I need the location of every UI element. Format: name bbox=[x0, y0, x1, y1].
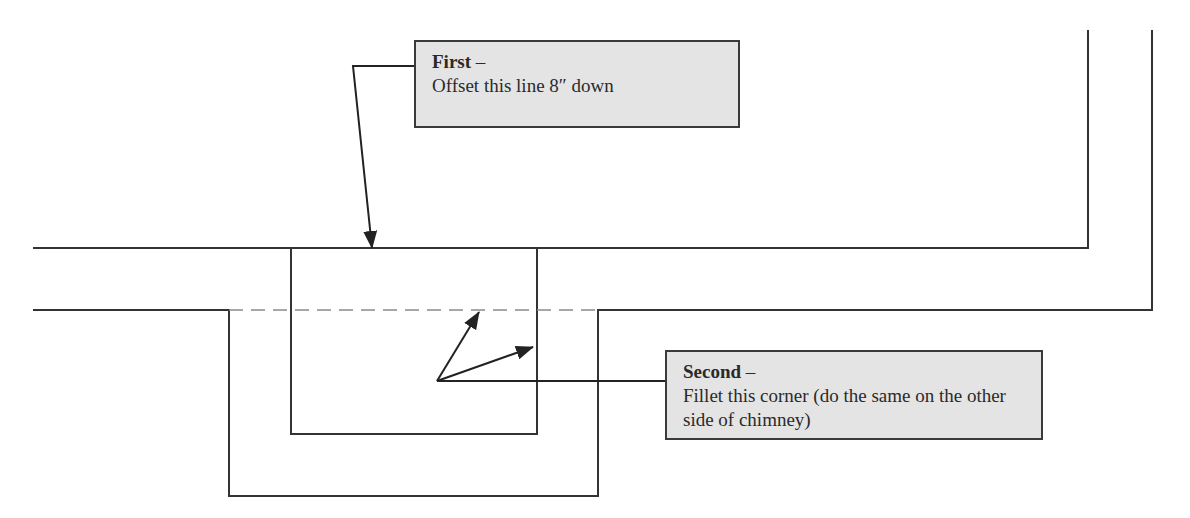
first-callout-title: First bbox=[432, 51, 471, 72]
fillet-arrow-upper bbox=[437, 312, 479, 381]
first-callout-box: First – Offset this line 8″ down bbox=[414, 40, 740, 128]
second-callout-heading: Second – bbox=[683, 360, 1025, 384]
fillet-arrow-right bbox=[437, 347, 533, 381]
first-callout-heading: First – bbox=[432, 50, 722, 74]
first-callout-separator: – bbox=[471, 51, 485, 72]
second-callout-separator: – bbox=[741, 361, 755, 382]
first-callout-leader bbox=[353, 66, 414, 248]
second-callout-box: Second – Fillet this corner (do the same… bbox=[665, 350, 1043, 440]
second-callout-title: Second bbox=[683, 361, 741, 382]
second-callout-body: Fillet this corner (do the same on the o… bbox=[683, 384, 1025, 432]
first-callout-body: Offset this line 8″ down bbox=[432, 74, 722, 98]
chimney-inner-outline[interactable] bbox=[291, 248, 537, 434]
